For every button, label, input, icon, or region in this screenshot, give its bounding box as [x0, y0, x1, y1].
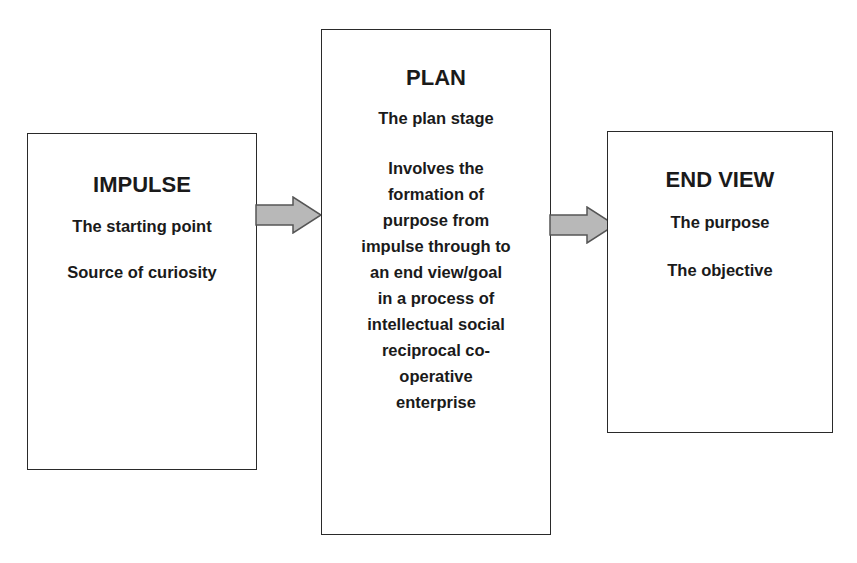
plan-subtitle: The plan stage: [322, 108, 550, 128]
plan-body-line: impulse through to: [328, 233, 544, 259]
plan-body-line: reciprocal co-: [328, 337, 544, 363]
plan-body-line: in a process of: [328, 285, 544, 311]
plan-body-line: formation of: [328, 181, 544, 207]
endview-line-2: The objective: [608, 260, 832, 280]
right-block-arrow-icon: [255, 196, 323, 234]
plan-title: PLAN: [322, 65, 550, 91]
impulse-line-1: The starting point: [28, 216, 256, 236]
plan-body-line: operative: [328, 363, 544, 389]
impulse-line-2: Source of curiosity: [28, 262, 256, 282]
plan-description: Involves the formation of purpose from i…: [322, 155, 550, 415]
plan-body-line: an end view/goal: [328, 259, 544, 285]
plan-box: PLAN The plan stage Involves the formati…: [321, 29, 551, 535]
plan-body-line: purpose from: [328, 207, 544, 233]
endview-title: END VIEW: [608, 167, 832, 193]
plan-body-line: intellectual social: [328, 311, 544, 337]
endview-line-1: The purpose: [608, 212, 832, 232]
plan-body-line: enterprise: [328, 389, 544, 415]
plan-body-line: Involves the: [328, 155, 544, 181]
impulse-title: IMPULSE: [28, 172, 256, 198]
endview-box: END VIEW The purpose The objective: [607, 131, 833, 433]
impulse-box: IMPULSE The starting point Source of cur…: [27, 133, 257, 470]
